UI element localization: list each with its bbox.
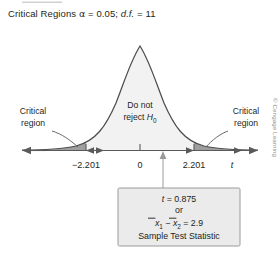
callout-t-value: = 0.875 (164, 194, 196, 204)
t-distribution-plot: −2.201 0 2.201 t Do not reject H0 Critic… (0, 0, 280, 255)
left-critical-leader-line (52, 131, 78, 147)
callout-line-caption: Sample Test Statistic (138, 231, 220, 241)
right-critical-leader-line (206, 131, 228, 147)
minus-operator: − (163, 218, 173, 228)
tick-label-zero: 0 (137, 160, 142, 170)
reject-word: reject (123, 112, 146, 122)
callout-line-or: or (175, 205, 183, 215)
mean-difference-value: = 2.9 (181, 218, 203, 228)
left-critical-region-label-line2: region (21, 118, 45, 128)
left-critical-region-label-line1: Critical (20, 106, 46, 116)
tick-label-left: −2.201 (72, 160, 100, 170)
right-axis-arrowhead (249, 147, 258, 154)
figure-critical-regions: ▬▬▬▬▬ Critical Regions α = 0.05; d.f. = … (0, 0, 280, 255)
left-axis-arrowhead (22, 147, 31, 154)
h-subscript: 0 (153, 117, 157, 124)
right-boundary-arrowhead (234, 147, 242, 154)
callout-line-t: t = 0.875 (162, 194, 197, 204)
non-rejection-region-label-line2: reject H0 (123, 112, 157, 124)
right-critical-region-label-line1: Critical (233, 106, 259, 116)
x-axis-label: t (231, 160, 234, 170)
non-rejection-region-label-line1: Do not (127, 100, 153, 110)
tick-label-right: 2.201 (183, 160, 206, 170)
copyright-credit: © Cengage Learning (272, 98, 279, 176)
callout-connector-arrowhead (160, 151, 167, 159)
right-critical-region-label-line2: region (234, 118, 258, 128)
curve-body-fill (22, 46, 258, 150)
